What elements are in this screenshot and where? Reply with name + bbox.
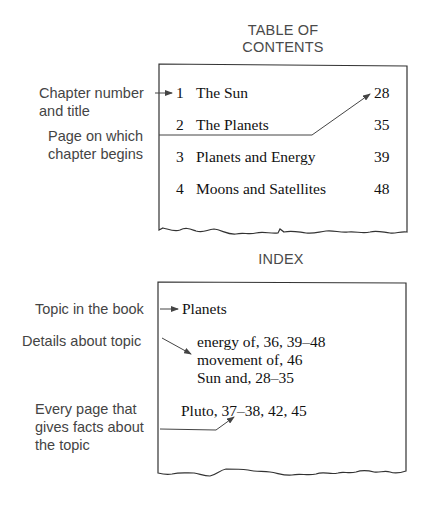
toc-entry-2-title: The Planets bbox=[196, 116, 269, 134]
index-topic: Planets bbox=[182, 300, 227, 318]
index-detail-2: movement of, 46 bbox=[197, 351, 302, 369]
toc-entry-1-number: 1 bbox=[176, 84, 184, 102]
toc-entry-3-number: 3 bbox=[176, 148, 184, 166]
details-arrow-icon bbox=[162, 338, 191, 354]
index-entry-pluto: Pluto, 37–38, 42, 45 bbox=[181, 402, 307, 420]
toc-title: TABLE OF CONTENTS bbox=[230, 22, 336, 56]
toc-entry-4-title: Moons and Satellites bbox=[196, 180, 326, 198]
label-details: Details about topic bbox=[22, 332, 141, 350]
toc-entry-4-page: 48 bbox=[374, 180, 390, 198]
index-detail-1: energy of, 36, 39–48 bbox=[197, 333, 325, 351]
toc-entry-4-number: 4 bbox=[176, 180, 184, 198]
index-title: INDEX bbox=[254, 251, 308, 268]
toc-title-line2: CONTENTS bbox=[230, 39, 336, 56]
index-detail-3: Sun and, 28–35 bbox=[197, 369, 294, 387]
label-page-begins: Page on which chapter begins bbox=[48, 127, 143, 163]
toc-title-line1: TABLE OF bbox=[230, 22, 336, 39]
toc-entry-1-title: The Sun bbox=[196, 84, 248, 102]
label-topic: Topic in the book bbox=[35, 300, 144, 318]
toc-entry-1-page: 28 bbox=[374, 84, 390, 102]
toc-entry-3-title: Planets and Energy bbox=[196, 148, 315, 166]
toc-entry-2-page: 35 bbox=[374, 116, 390, 134]
label-every-page: Every page that gives facts about the to… bbox=[35, 400, 144, 454]
toc-entry-3-page: 39 bbox=[374, 148, 390, 166]
toc-entry-2-number: 2 bbox=[176, 116, 184, 134]
label-chapter-number: Chapter number and title bbox=[39, 84, 144, 120]
